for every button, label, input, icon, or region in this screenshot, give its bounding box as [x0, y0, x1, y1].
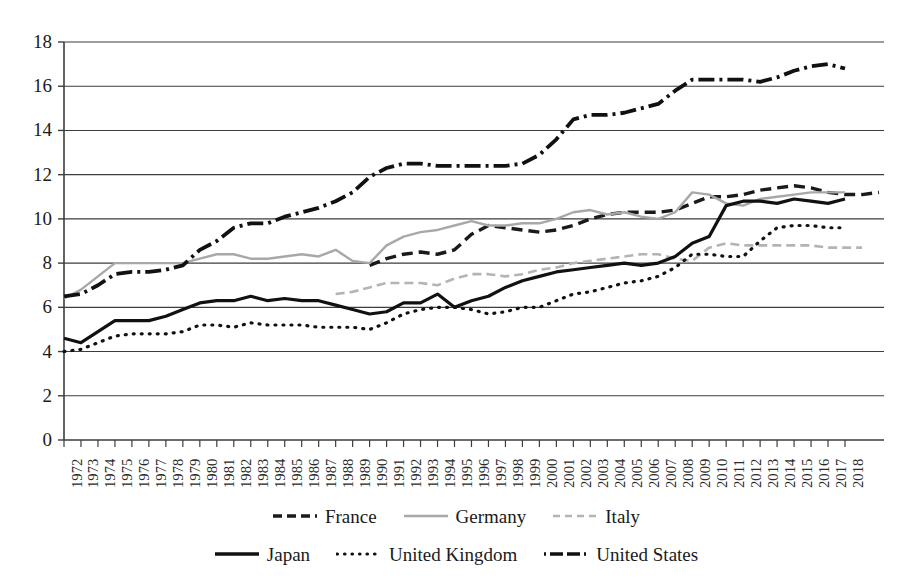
- x-tick-label: 2018: [851, 459, 866, 488]
- x-tick-label: 2016: [817, 459, 832, 488]
- x-tick-label: 1988: [341, 459, 356, 488]
- x-tick-label: 1978: [171, 459, 186, 488]
- x-tick-label: 1996: [477, 459, 492, 488]
- y-tick-label: 0: [12, 430, 52, 449]
- legend-item-united-kingdom[interactable]: United Kingdom: [336, 545, 517, 564]
- x-tick-label: 2001: [562, 459, 577, 488]
- legend-label: France: [325, 507, 377, 526]
- x-tick-label: 2006: [647, 459, 662, 488]
- x-tick-label: 2004: [613, 459, 628, 488]
- legend-label: Japan: [267, 545, 310, 564]
- france-dashed-swatch: [272, 509, 318, 523]
- legend-row: JapanUnited KingdomUnited States: [0, 535, 912, 573]
- x-tick-label: 1991: [392, 459, 407, 488]
- x-tick-label: 1987: [324, 459, 339, 488]
- legend-label: Germany: [456, 507, 527, 526]
- series-line-france: [370, 186, 879, 266]
- x-tick-label: 2003: [596, 459, 611, 488]
- x-tick-label: 1990: [375, 459, 390, 488]
- x-tick-label: 1973: [86, 459, 101, 488]
- x-tick-label: 2008: [681, 459, 696, 488]
- series-line-japan: [64, 199, 845, 343]
- x-tick-label: 2017: [834, 459, 849, 488]
- series-line-italy: [336, 243, 862, 294]
- y-tick-label: 14: [12, 120, 52, 139]
- x-tick-label: 1999: [528, 459, 543, 488]
- x-tick-label: 1985: [290, 459, 305, 488]
- x-tick-label: 1980: [205, 459, 220, 488]
- x-tick-label: 1984: [273, 459, 288, 488]
- series-line-germany: [64, 192, 845, 298]
- x-tick-label: 2012: [749, 459, 764, 488]
- legend-item-italy[interactable]: Italy: [552, 507, 640, 526]
- x-tick-label: 2011: [732, 459, 747, 488]
- x-tick-label: 1982: [239, 459, 254, 488]
- legend-item-germany[interactable]: Germany: [403, 507, 527, 526]
- series-line-united-kingdom: [64, 226, 845, 352]
- legend-label: Italy: [605, 507, 640, 526]
- legend-item-japan[interactable]: Japan: [214, 545, 310, 564]
- x-tick-label: 1977: [154, 459, 169, 488]
- x-tick-label: 1995: [460, 459, 475, 488]
- x-tick-label: 1997: [494, 459, 509, 488]
- x-tick-label: 1979: [188, 459, 203, 488]
- y-tick-label: 6: [12, 297, 52, 316]
- x-tick-label: 1989: [358, 459, 373, 488]
- series-lines-group: [64, 64, 879, 351]
- legend-row: FranceGermanyItaly: [0, 497, 912, 535]
- x-tick-label: 2013: [766, 459, 781, 488]
- series-line-united-states: [64, 64, 845, 296]
- y-tick-label: 10: [12, 209, 52, 228]
- axes-group: [58, 42, 884, 440]
- y-tick-label: 16: [12, 76, 52, 95]
- y-tick-label: 2: [12, 386, 52, 405]
- x-tick-label: 2015: [800, 459, 815, 488]
- chart-legend: FranceGermanyItalyJapanUnited KingdomUni…: [0, 497, 912, 573]
- x-tick-label: 1994: [443, 459, 458, 488]
- y-tick-label: 18: [12, 32, 52, 51]
- x-tick-label: 1981: [222, 459, 237, 488]
- y-tick-label: 12: [12, 165, 52, 184]
- y-tick-label: 4: [12, 342, 52, 361]
- y-tick-label: 8: [12, 253, 52, 272]
- japan-solid-swatch: [214, 547, 260, 561]
- x-tick-label: 2007: [664, 459, 679, 488]
- x-tick-label: 2000: [545, 459, 560, 488]
- x-tick-label: 1983: [256, 459, 271, 488]
- x-tick-label: 1992: [409, 459, 424, 488]
- x-tick-label: 1976: [137, 459, 152, 488]
- x-tick-label: 1975: [120, 459, 135, 488]
- italy-dashed-swatch: [552, 509, 598, 523]
- x-tick-label: 1974: [103, 459, 118, 488]
- x-tick-label: 2014: [783, 459, 798, 488]
- x-tick-label: 1993: [426, 459, 441, 488]
- legend-item-france[interactable]: France: [272, 507, 377, 526]
- line-chart-figure: 024681012141618 197219731974197519761977…: [0, 0, 912, 587]
- x-tick-label: 1972: [70, 459, 85, 488]
- legend-label: United Kingdom: [389, 545, 517, 564]
- x-tick-marks-group: [64, 440, 845, 447]
- legend-item-united-states[interactable]: United States: [543, 545, 698, 564]
- x-tick-label: 1986: [307, 459, 322, 488]
- x-tick-label: 2005: [630, 459, 645, 488]
- x-tick-label: 1998: [511, 459, 526, 488]
- x-tick-label: 2002: [579, 459, 594, 488]
- germany-solid-swatch: [403, 509, 449, 523]
- x-tick-label: 2009: [698, 459, 713, 488]
- gridlines-group: [64, 42, 884, 396]
- uk-dotted-swatch: [336, 547, 382, 561]
- us-dashdot-swatch: [543, 547, 589, 561]
- x-tick-label: 2010: [715, 459, 730, 488]
- legend-label: United States: [596, 545, 698, 564]
